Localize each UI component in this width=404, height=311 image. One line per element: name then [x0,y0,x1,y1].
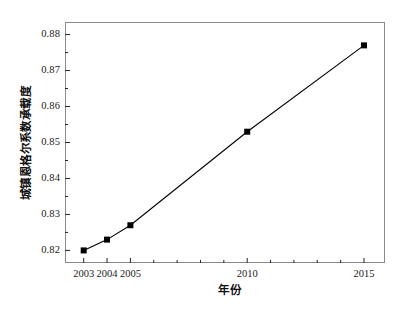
y-axis-title: 城镇恩格尔系数承载度 [13,0,37,285]
x-axis-tick-label: 2005 [120,268,141,279]
x-axis-title: 年份 [0,281,404,297]
x-axis-tick-labels: 20032004200520102015 [0,0,404,311]
x-axis-tick-label: 2015 [353,268,374,279]
x-axis-tick-label: 2010 [237,268,258,279]
y-axis-title-text: 城镇恩格尔系数承载度 [17,86,33,200]
chart-container: 0.880.870.860.850.840.830.82 20032004200… [0,0,404,311]
x-axis-title-text: 年份 [218,281,241,297]
x-axis-tick-label: 2003 [73,268,94,279]
x-axis-tick-label: 2004 [97,268,118,279]
